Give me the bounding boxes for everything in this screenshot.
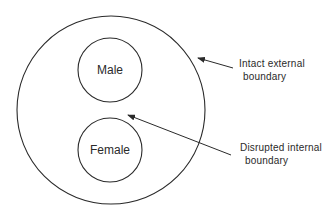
internal-boundary-label-line2: boundary (245, 155, 288, 166)
boundary-diagram: Male Female Intact external boundary Dis… (0, 0, 335, 216)
external-boundary-label-line2: boundary (243, 71, 286, 82)
female-label: Female (90, 143, 130, 157)
male-label: Male (97, 63, 123, 77)
internal-boundary-arrow (128, 115, 231, 155)
internal-boundary-label-line1: Disrupted internal (240, 142, 322, 153)
external-boundary-label-line1: Intact external (239, 58, 305, 69)
outer-circle (17, 16, 205, 204)
external-boundary-arrow (198, 58, 233, 68)
